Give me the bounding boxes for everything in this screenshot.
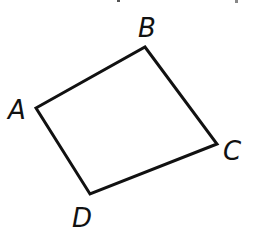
cropped-glyph-fragment [235, 0, 238, 3]
vertex-label-a: A [6, 95, 26, 125]
vertex-label-b: B [138, 13, 156, 43]
vertex-label-c: C [223, 136, 242, 166]
vertex-label-d: D [72, 203, 92, 233]
quadrilateral-abcd [36, 47, 217, 194]
quadrilateral-diagram: A B C D [0, 0, 253, 237]
cropped-glyph-fragment [117, 0, 120, 2]
